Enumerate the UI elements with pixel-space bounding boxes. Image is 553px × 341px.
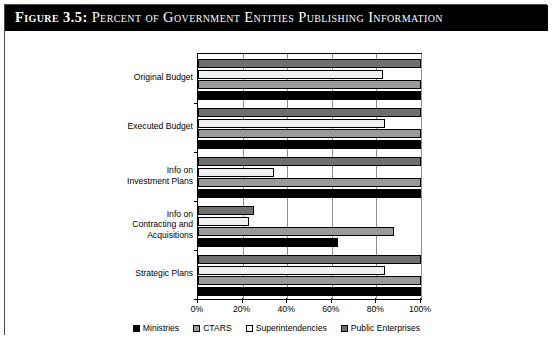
x-axis-tick <box>375 298 376 303</box>
legend-item: Superintendencies <box>246 323 327 333</box>
y-axis-label: Info onInvestment Plans <box>43 165 193 186</box>
figure-title-bar: Figure 3.5: Percent of Government Entiti… <box>5 5 548 31</box>
chart-body: Original BudgetExecuted BudgetInfo onInv… <box>5 31 548 335</box>
bar-ministries <box>198 140 421 149</box>
bar-group <box>198 152 421 201</box>
bar-public <box>198 157 421 166</box>
gridline <box>421 54 422 299</box>
y-axis-label-line: Acquisitions <box>43 230 193 241</box>
bar-public <box>198 59 421 68</box>
legend-label: Public Enterprises <box>351 323 420 333</box>
figure-container: Figure 3.5: Percent of Government Entiti… <box>4 4 547 335</box>
x-axis-tick-labels: 0%20%40%60%80%100% <box>197 304 422 318</box>
legend-item: Ministries <box>133 323 179 333</box>
legend-swatch-icon <box>133 325 140 332</box>
bar-public <box>198 108 421 117</box>
figure-title-text: Percent of Government Entities Publishin… <box>92 9 443 25</box>
bar-ministries <box>198 91 421 100</box>
bar-superintendencies <box>198 266 385 275</box>
bar-superintendencies <box>198 168 274 177</box>
legend-swatch-icon <box>341 325 348 332</box>
bar-public <box>198 255 421 264</box>
bar-ministries <box>198 287 421 296</box>
bar-superintendencies <box>198 217 249 226</box>
y-axis-label: Executed Budget <box>43 121 193 132</box>
x-axis-tick-label: 40% <box>278 304 295 314</box>
legend-item: Public Enterprises <box>341 323 420 333</box>
x-axis-tick <box>286 298 287 303</box>
bar-public <box>198 206 254 215</box>
x-axis-tick <box>331 298 332 303</box>
figure-label: Figure 3.5: <box>15 9 88 25</box>
bar-superintendencies <box>198 70 383 79</box>
x-axis-tick-label: 20% <box>233 304 250 314</box>
y-axis-label-line: Original Budget <box>43 72 193 83</box>
bar-ctars <box>198 129 421 138</box>
y-axis-labels: Original BudgetExecuted BudgetInfo onInv… <box>41 53 193 298</box>
bar-ctars <box>198 227 394 236</box>
bar-ctars <box>198 178 421 187</box>
bar-ministries <box>198 189 421 198</box>
bar-group <box>198 103 421 152</box>
bar-ministries <box>198 238 338 247</box>
x-axis-tick <box>197 298 198 303</box>
bar-ctars <box>198 276 421 285</box>
bar-ctars <box>198 80 421 89</box>
y-axis-label: Original Budget <box>43 72 193 83</box>
x-axis-tick-label: 100% <box>409 304 431 314</box>
bar-superintendencies <box>198 119 385 128</box>
y-axis-label-line: Investment Plans <box>43 176 193 187</box>
y-axis-label-line: Info on <box>43 165 193 176</box>
y-axis-label: Info onContracting andAcquisitions <box>43 209 193 241</box>
y-axis-label-line: Executed Budget <box>43 121 193 132</box>
bar-group <box>198 201 421 250</box>
legend-label: Superintendencies <box>256 323 327 333</box>
y-axis-label-line: Strategic Plans <box>43 268 193 279</box>
plot-area <box>197 53 422 300</box>
legend-swatch-icon <box>246 325 253 332</box>
legend-label: CTARS <box>203 323 232 333</box>
page-title: Figure 3.5: Percent of Government Entiti… <box>15 9 443 26</box>
bar-group <box>198 250 421 299</box>
x-axis-tick <box>420 298 421 303</box>
legend-label: Ministries <box>143 323 179 333</box>
y-axis-label-line: Contracting and <box>43 219 193 230</box>
x-axis-tick <box>242 298 243 303</box>
y-axis-label: Strategic Plans <box>43 268 193 279</box>
bar-group <box>198 54 421 103</box>
x-axis-tick-label: 60% <box>322 304 339 314</box>
y-axis-label-line: Info on <box>43 209 193 220</box>
legend-item: CTARS <box>193 323 232 333</box>
x-axis-tick-label: 0% <box>191 304 203 314</box>
x-axis-tick-label: 80% <box>367 304 384 314</box>
chart-legend: MinistriesCTARSSuperintendenciesPublic E… <box>5 320 548 336</box>
legend-swatch-icon <box>193 325 200 332</box>
